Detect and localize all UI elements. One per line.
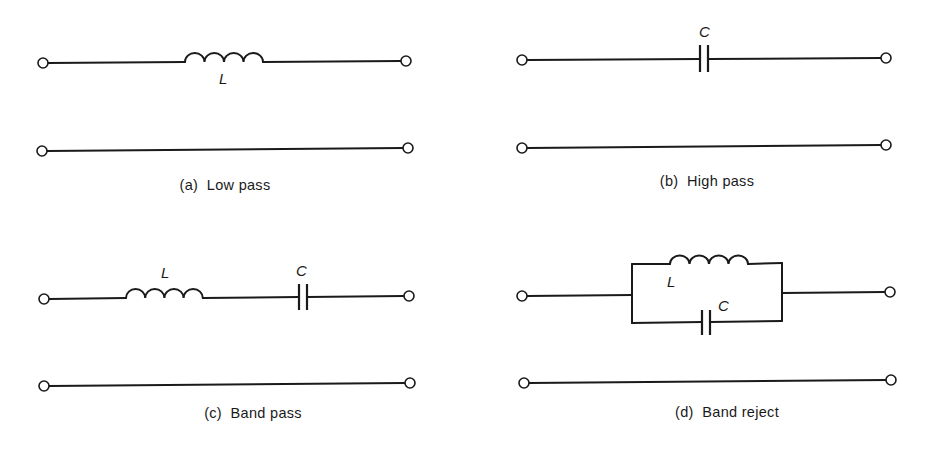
terminal-top-right (404, 291, 414, 301)
bottom-wire (527, 145, 881, 148)
inductor-coil-icon (126, 289, 203, 298)
top-wire-left (48, 62, 185, 63)
panel-caption: (d) Band reject (675, 404, 779, 420)
terminal-top-left (39, 294, 49, 304)
terminal-bottom-left (519, 378, 529, 388)
terminal-bottom-left (37, 146, 47, 156)
top-wire-left (49, 298, 126, 299)
capacitor-icon (299, 284, 307, 310)
inductor-coil-icon (670, 256, 748, 264)
mid-wire (203, 297, 299, 298)
inductor-label: L (667, 273, 675, 290)
terminal-top-right (401, 56, 411, 66)
terminal-top-left (517, 291, 527, 301)
panel-caption: (a) Low pass (180, 177, 271, 193)
terminal-bottom-left (39, 381, 49, 391)
terminal-bottom-right (405, 378, 415, 388)
capacitor-label: C (718, 297, 729, 314)
capacitor-label: C (699, 23, 710, 40)
panel-band-pass: L (c) Band pass C (39, 262, 415, 421)
terminal-top-left (517, 55, 527, 65)
terminal-top-right (885, 287, 895, 297)
top-wire-left (527, 295, 632, 296)
terminal-top-left (38, 58, 48, 68)
parallel-top-right-wire (748, 263, 782, 264)
filter-circuits-diagram: L (a) Low pass C (b) High pass L (0, 0, 926, 449)
terminal-top-right (881, 53, 891, 63)
bottom-wire (49, 383, 405, 386)
top-wire-right (708, 58, 881, 59)
parallel-bottom-left-wire (632, 322, 702, 323)
panel-low-pass: L (a) Low pass (37, 53, 413, 193)
panel-caption: (c) Band pass (204, 405, 302, 421)
top-wire-left (527, 59, 700, 60)
terminal-bottom-right (886, 375, 896, 385)
inductor-label: L (219, 70, 227, 87)
terminal-bottom-right (403, 143, 413, 153)
inductor-label: L (161, 264, 169, 281)
terminal-bottom-left (517, 143, 527, 153)
bottom-wire (47, 148, 403, 151)
panel-caption: (b) High pass (660, 173, 754, 189)
capacitor-label: C (296, 262, 307, 279)
panel-band-reject: L C (d) Band reject (517, 256, 896, 420)
capacitor-icon (702, 310, 710, 335)
parallel-bottom-right-wire (710, 321, 782, 322)
top-wire-right (263, 61, 401, 62)
capacitor-icon (700, 45, 708, 72)
top-wire-right (307, 296, 404, 297)
inductor-coil-icon (185, 53, 263, 62)
terminal-bottom-right (881, 140, 891, 150)
bottom-wire (529, 380, 886, 383)
top-wire-right (782, 292, 885, 293)
panel-high-pass: C (b) High pass (517, 23, 891, 189)
